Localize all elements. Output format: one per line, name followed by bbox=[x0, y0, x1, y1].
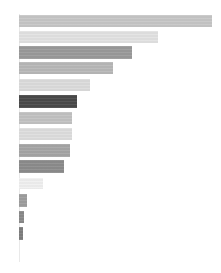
plot-area bbox=[0, 0, 221, 273]
bar-chart bbox=[0, 0, 221, 273]
bar-item-11[interactable] bbox=[19, 178, 43, 189]
bar-item-10[interactable] bbox=[19, 160, 64, 173]
bar-item-8[interactable] bbox=[19, 128, 72, 140]
bar-item-5[interactable] bbox=[19, 79, 90, 91]
bar-item-7[interactable] bbox=[19, 112, 72, 124]
bar-item-14[interactable] bbox=[19, 227, 23, 240]
bar-item-1[interactable] bbox=[19, 15, 212, 27]
bar-item-9[interactable] bbox=[19, 144, 70, 157]
bar-item-12[interactable] bbox=[19, 194, 27, 207]
bar-item-6[interactable] bbox=[19, 95, 77, 108]
bar-item-4[interactable] bbox=[19, 62, 113, 74]
bar-item-13[interactable] bbox=[19, 211, 24, 223]
bar-item-2[interactable] bbox=[19, 31, 158, 43]
bar-item-3[interactable] bbox=[19, 46, 132, 59]
